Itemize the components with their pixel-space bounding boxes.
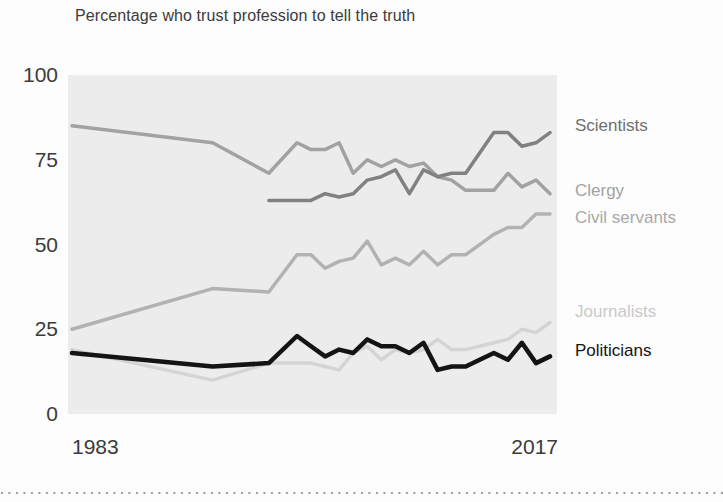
series-label-journalists: Journalists: [575, 302, 656, 322]
page: Percentage who trust profession to tell …: [0, 0, 723, 502]
y-tick-label-100: 100: [0, 63, 58, 87]
series-label-clergy: Clergy: [575, 181, 624, 201]
x-tick-2017: 2017: [430, 435, 558, 459]
y-tick-label-50: 50: [0, 233, 58, 257]
y-tick-label-25: 25: [0, 317, 58, 341]
x-tick-1983: 1983: [72, 435, 119, 459]
line-chart: [0, 0, 723, 502]
line-journalists: [72, 323, 550, 381]
line-clergy: [72, 126, 550, 194]
series-label-civil-servants: Civil servants: [575, 208, 676, 228]
dotted-divider: [0, 491, 723, 496]
y-tick-label-75: 75: [0, 148, 58, 172]
y-tick-label-0: 0: [0, 402, 58, 426]
series-label-politicians: Politicians: [575, 341, 652, 361]
line-civil-servants: [72, 214, 550, 329]
series-label-scientists: Scientists: [575, 116, 648, 136]
